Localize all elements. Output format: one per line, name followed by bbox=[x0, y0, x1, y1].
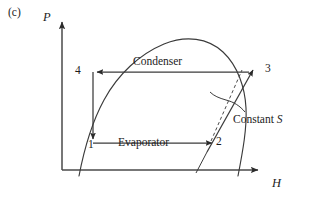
ph-diagram-canvas bbox=[0, 0, 311, 205]
pressure-axis-label: P bbox=[43, 11, 51, 24]
figure-panel-c: (c) P H 4 1 2 3 Condenser Evaporator Con… bbox=[0, 0, 311, 205]
constant-entropy-label: Constant S bbox=[233, 114, 283, 126]
panel-tag: (c) bbox=[8, 7, 21, 19]
state-point-2-label: 2 bbox=[216, 136, 222, 148]
evaporator-label: Evaporator bbox=[118, 137, 169, 149]
enthalpy-axis-label: H bbox=[272, 177, 281, 190]
state-point-1-label: 1 bbox=[88, 139, 94, 151]
state-point-3-label: 3 bbox=[265, 63, 271, 75]
constant-entropy-text: Constant bbox=[233, 113, 277, 125]
state-point-4-label: 4 bbox=[75, 65, 81, 77]
condenser-label: Condenser bbox=[133, 56, 182, 68]
entropy-symbol: S bbox=[277, 113, 283, 125]
